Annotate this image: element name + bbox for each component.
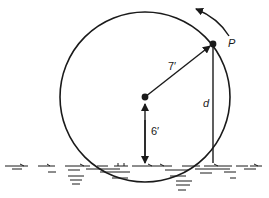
center-point <box>142 94 149 101</box>
center-height-label: 6′ <box>151 125 159 137</box>
diagram-canvas: 7′ 6′ d P <box>0 0 269 198</box>
point-p-label: P <box>228 37 236 49</box>
water-surface <box>5 163 262 190</box>
radius-arrow <box>145 46 210 97</box>
distance-d-label: d <box>203 97 210 109</box>
radius-label: 7′ <box>168 60 176 72</box>
rotation-arrow-icon <box>196 9 229 36</box>
